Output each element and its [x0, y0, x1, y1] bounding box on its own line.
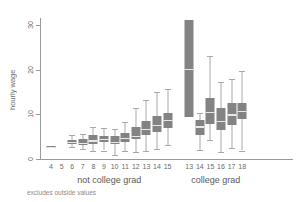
lower-whisker-cap: [218, 152, 224, 153]
upper-whisker-cap: [154, 92, 160, 93]
lower-whisker: [157, 132, 158, 149]
y-tick-mark: [36, 114, 40, 115]
lower-whisker-cap: [101, 151, 107, 152]
upper-whisker: [157, 92, 158, 115]
lower-whisker-cap: [207, 140, 213, 141]
upper-whisker-cap: [218, 82, 224, 83]
y-tick-label: 10: [22, 107, 34, 121]
lower-whisker: [125, 142, 126, 152]
x-tick-label: 15: [164, 163, 172, 171]
group-label-college-grad: college grad: [191, 175, 240, 186]
upper-whisker: [104, 128, 105, 136]
lower-whisker-cap: [165, 145, 171, 146]
chart-footnote: excludes outside values: [27, 189, 96, 197]
lower-whisker-cap: [90, 151, 96, 152]
median-line: [163, 120, 172, 121]
upper-whisker-cap: [143, 100, 149, 101]
x-tick-label: 10: [111, 163, 119, 171]
x-tick-label: 16: [217, 163, 225, 171]
y-tick-mark: [36, 70, 40, 71]
lower-whisker-cap: [133, 152, 139, 153]
x-tick-label: 11: [122, 163, 129, 171]
lower-whisker-cap: [239, 151, 245, 152]
lower-whisker: [93, 144, 94, 151]
lower-whisker: [242, 119, 243, 150]
x-tick-label: 12: [132, 163, 140, 171]
x-tick-label: 7: [81, 163, 85, 171]
box-plot-item: [235, 0, 250, 202]
y-tick-label: 0: [22, 152, 34, 166]
x-tick-label: 5: [60, 163, 64, 171]
lower-whisker-cap: [229, 148, 235, 149]
upper-whisker: [221, 82, 222, 108]
x-tick-label: 8: [91, 163, 95, 171]
box-plot-item: [160, 0, 175, 202]
upper-whisker: [199, 113, 200, 120]
upper-whisker: [210, 56, 211, 98]
lower-whisker: [221, 130, 222, 152]
median-line: [47, 147, 56, 148]
upper-whisker: [146, 100, 147, 121]
lower-whisker-cap: [112, 155, 118, 156]
lower-whisker-cap: [197, 150, 203, 151]
x-tick-label: 14: [153, 163, 161, 171]
box-plot-item: [44, 0, 59, 202]
lower-whisker: [210, 124, 211, 140]
y-tick-mark: [36, 159, 40, 160]
y-tick-label-text: 10: [27, 110, 34, 118]
upper-whisker-cap: [133, 108, 139, 109]
upper-whisker-cap: [239, 71, 245, 72]
y-tick-label-text: 0: [27, 157, 34, 161]
upper-whisker-cap: [101, 128, 107, 129]
upper-whisker: [114, 129, 115, 136]
y-tick-mark: [36, 25, 40, 26]
group-label-not-college-grad: not college grad: [77, 175, 141, 186]
upper-whisker-cap: [165, 89, 171, 90]
upper-whisker: [167, 89, 168, 113]
x-tick-label: 17: [228, 163, 236, 171]
y-axis-line: [40, 18, 41, 160]
lower-whisker-cap: [154, 149, 160, 150]
upper-whisker: [135, 108, 136, 127]
upper-whisker-cap: [69, 135, 75, 136]
lower-whisker-cap: [143, 151, 149, 152]
upper-whisker: [125, 122, 126, 132]
lower-whisker: [146, 135, 147, 152]
y-axis-title: hourly wage: [8, 62, 20, 118]
upper-whisker-cap: [122, 122, 128, 123]
x-tick-label: 6: [70, 163, 74, 171]
upper-whisker: [231, 79, 232, 103]
upper-whisker-cap: [90, 127, 96, 128]
x-tick-label: 9: [102, 163, 106, 171]
x-tick-label: 14: [196, 163, 204, 171]
lower-whisker: [114, 144, 115, 154]
upper-whisker: [242, 71, 243, 103]
x-tick-label: 4: [49, 163, 53, 171]
upper-whisker-cap: [207, 56, 213, 57]
lower-whisker-cap: [80, 149, 86, 150]
upper-whisker: [93, 127, 94, 135]
lower-whisker: [199, 135, 200, 150]
lower-whisker: [231, 125, 232, 148]
lower-whisker: [167, 128, 168, 145]
lower-whisker: [104, 142, 105, 150]
upper-whisker-cap: [229, 79, 235, 80]
lower-whisker-cap: [69, 147, 75, 148]
y-tick-label-text: 30: [27, 21, 34, 29]
x-tick-label: 15: [206, 163, 214, 171]
y-tick-label: 30: [22, 18, 34, 32]
x-tick-label: 13: [185, 163, 193, 171]
lower-whisker-cap: [122, 151, 128, 152]
boxplot-chart: hourly wage 0102030 45678910111213141513…: [0, 0, 301, 202]
y-tick-label-text: 20: [27, 66, 34, 74]
upper-whisker-cap: [80, 134, 86, 135]
x-tick-label: 18: [238, 163, 246, 171]
x-tick-label: 13: [142, 163, 150, 171]
upper-whisker-cap: [197, 113, 203, 114]
lower-whisker: [135, 139, 136, 152]
y-tick-label: 20: [22, 63, 34, 77]
median-line: [238, 111, 247, 112]
upper-whisker-cap: [112, 129, 118, 130]
